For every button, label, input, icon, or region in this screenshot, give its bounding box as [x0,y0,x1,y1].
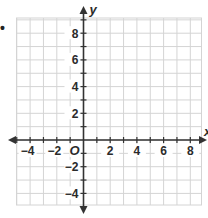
y-tick-label: −4 [65,187,79,201]
bullet-marker: • [0,20,5,36]
y-tick-label: 8 [72,27,79,41]
x-tick-label: −4 [21,144,35,158]
x-tick-label: 8 [187,144,194,158]
y-axis-arrow-up-icon [80,6,88,14]
y-tick-label: 6 [72,53,79,67]
y-axis-name: y [89,2,98,17]
x-tick-label: 6 [160,144,167,158]
x-tick-label: 4 [134,144,141,158]
x-tick-label: 2 [107,144,114,158]
origin-label: O [69,143,79,158]
coordinate-plane: −4−224688642−2−4Oyx [0,0,208,218]
x-axis-name: x [203,124,208,139]
y-axis-arrow-down-icon [80,206,88,214]
x-axis-arrow-left-icon [8,136,16,144]
y-tick-label: 4 [72,80,79,94]
y-tick-label: −2 [65,160,79,174]
y-tick-label: 2 [72,107,79,121]
x-tick-label: −2 [47,144,61,158]
grid-lines [17,18,202,205]
axis-labels: −4−224688642−2−4Oyx [19,2,208,201]
